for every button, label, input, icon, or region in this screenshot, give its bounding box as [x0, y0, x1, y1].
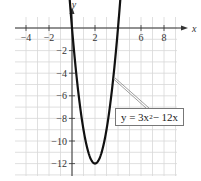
svg-text:−4: −4 [56, 68, 67, 79]
svg-text:−12: −12 [51, 158, 67, 169]
svg-text:2: 2 [93, 32, 98, 43]
equation-suffix: − 12x [153, 111, 178, 123]
svg-text:−4: −4 [21, 32, 32, 43]
svg-text:8: 8 [162, 32, 167, 43]
svg-text:−2: −2 [44, 32, 55, 43]
svg-text:−10: −10 [51, 136, 67, 147]
svg-text:x: x [191, 23, 197, 34]
parabola-chart: −4−2268−2−4−6−8−10−12xy [0, 0, 201, 181]
svg-text:−6: −6 [56, 90, 67, 101]
svg-text:6: 6 [139, 32, 144, 43]
svg-text:−2: −2 [56, 45, 67, 56]
annotation-leader-line [113, 78, 149, 108]
svg-text:−8: −8 [56, 113, 67, 124]
equation-prefix: y = 3x [121, 111, 149, 123]
svg-text:y: y [71, 0, 77, 10]
equation-label: y = 3x2 − 12x [115, 108, 184, 126]
